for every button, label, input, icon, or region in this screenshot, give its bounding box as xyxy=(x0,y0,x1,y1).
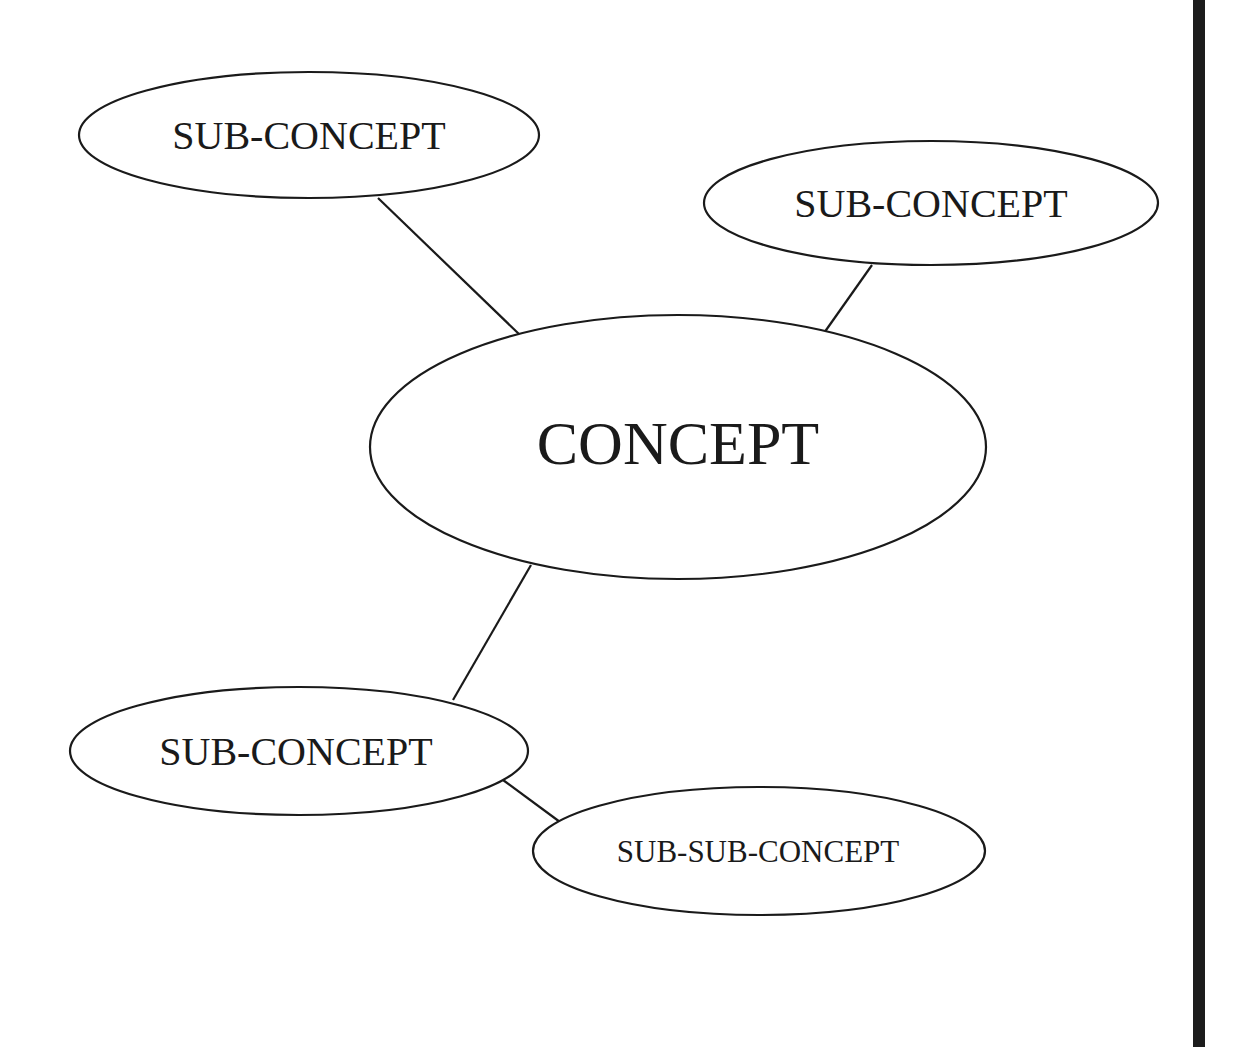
edge-sub2-to-concept xyxy=(824,265,872,333)
concept-map-diagram: SUB-CONCEPT SUB-CONCEPT CONCEPT SUB-CONC… xyxy=(0,0,1236,1047)
node-label: SUB-SUB-CONCEPT xyxy=(617,834,900,869)
right-edge-bar xyxy=(1193,0,1205,1047)
node-sub-concept-top-left[interactable]: SUB-CONCEPT xyxy=(79,72,539,198)
node-label: SUB-CONCEPT xyxy=(159,729,432,774)
node-label: CONCEPT xyxy=(537,409,819,477)
node-label: SUB-CONCEPT xyxy=(172,113,445,158)
edge-concept-to-sub3 xyxy=(453,565,531,700)
node-sub-concept-top-right[interactable]: SUB-CONCEPT xyxy=(704,141,1158,265)
node-sub-sub-concept[interactable]: SUB-SUB-CONCEPT xyxy=(533,787,985,915)
node-label: SUB-CONCEPT xyxy=(794,181,1067,226)
edge-sub1-to-concept xyxy=(378,198,520,335)
node-sub-concept-bottom-left[interactable]: SUB-CONCEPT xyxy=(70,687,528,815)
edge-sub3-to-subsub1 xyxy=(503,780,560,822)
node-concept-center[interactable]: CONCEPT xyxy=(370,315,986,579)
